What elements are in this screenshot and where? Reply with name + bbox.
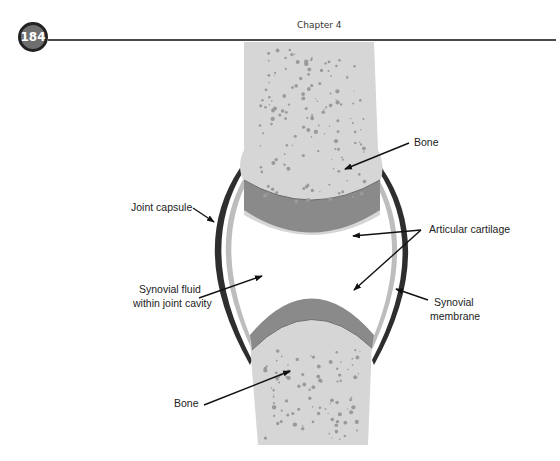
bone-spot xyxy=(312,421,315,424)
bone-spot xyxy=(336,119,339,122)
bone-spot xyxy=(334,148,336,150)
bone-spot xyxy=(285,111,288,114)
bone-spot xyxy=(302,187,305,190)
bone-spot xyxy=(328,70,330,72)
bone-spot xyxy=(336,381,338,383)
bone-spot xyxy=(281,410,283,412)
bone-spot xyxy=(268,74,271,77)
bone-spot xyxy=(358,373,359,374)
bone-spot xyxy=(271,188,274,191)
bone-spot xyxy=(356,429,358,431)
bone-spot xyxy=(329,104,333,108)
bone-spot xyxy=(275,158,278,161)
bone-spot xyxy=(261,99,263,101)
bone-spot xyxy=(278,381,280,383)
bone-spot xyxy=(301,92,305,96)
bone-spot xyxy=(259,104,262,107)
bone-spot xyxy=(334,139,338,143)
bone-spot xyxy=(274,72,276,74)
bone-spot xyxy=(286,144,289,147)
bone-spot xyxy=(317,150,319,152)
bone-spot xyxy=(260,145,262,147)
bone-spot xyxy=(353,375,357,379)
bone-spot xyxy=(311,117,314,120)
bone-spot xyxy=(356,356,360,360)
bone-top xyxy=(240,42,383,235)
bone-spot xyxy=(331,418,335,422)
bone-spot xyxy=(296,358,299,361)
bone-spot xyxy=(354,349,356,351)
bone-spot xyxy=(336,99,337,100)
bone-spot xyxy=(278,114,281,117)
bone-spot xyxy=(271,117,275,121)
bone-spot xyxy=(302,154,305,157)
bone-spot xyxy=(346,76,348,78)
bone-spot xyxy=(310,84,313,87)
bone-spot xyxy=(297,385,300,388)
bone-spot xyxy=(354,131,357,134)
bone-spot xyxy=(336,100,340,104)
bone-spot xyxy=(295,200,299,204)
bone-spot xyxy=(284,57,286,59)
bone-spot xyxy=(287,376,291,380)
bone-spot xyxy=(301,373,304,376)
bone-spot xyxy=(318,379,322,383)
bone-spot xyxy=(317,100,319,102)
bone-spot xyxy=(320,69,323,72)
bone-spot xyxy=(329,126,330,127)
bone-spot xyxy=(263,368,267,372)
bone-spot xyxy=(318,125,320,127)
bone-spot xyxy=(268,82,270,84)
bone-spot xyxy=(324,62,326,64)
bone-spot xyxy=(293,422,297,426)
bone-spot xyxy=(351,405,355,409)
bone-spot xyxy=(260,166,263,169)
bone-spot xyxy=(355,420,359,424)
bone-spot xyxy=(282,94,286,98)
bone-spot xyxy=(350,397,352,399)
bone-spot xyxy=(283,110,284,111)
bone-spot xyxy=(318,82,321,85)
bone-spot xyxy=(265,88,268,91)
label-synovial-membrane-1: Synovial xyxy=(434,296,474,308)
bone-spot xyxy=(307,68,311,72)
bone-spot xyxy=(354,90,355,91)
bone-spot xyxy=(294,84,298,88)
bone-spot xyxy=(259,124,262,127)
bone-spot xyxy=(330,403,331,404)
bone-spot xyxy=(328,61,331,64)
bone-spot xyxy=(360,129,361,130)
bone-spot xyxy=(324,133,325,134)
bone-spot xyxy=(276,49,280,53)
bone-spot xyxy=(312,385,316,389)
bone-spot xyxy=(286,167,290,171)
bone-spot xyxy=(330,93,332,95)
bone-spot xyxy=(353,65,355,67)
bone-spot xyxy=(294,54,295,55)
bone-spot xyxy=(305,185,309,189)
bone-spot xyxy=(310,59,312,61)
bone-spot xyxy=(280,420,283,423)
bone-spot xyxy=(328,413,329,414)
bone-spot xyxy=(343,421,347,425)
synovial-joint-figure: Bone Joint capsule Articular cartilage S… xyxy=(0,0,560,461)
bone-spot xyxy=(352,196,354,198)
bone-spot xyxy=(302,425,304,427)
bone-spot xyxy=(286,413,289,416)
bone-spot xyxy=(341,190,344,193)
bone-spot xyxy=(302,125,305,128)
bone-spot xyxy=(349,399,352,402)
bone-spot xyxy=(288,104,290,106)
bone-spot xyxy=(347,408,348,409)
bone-spot xyxy=(319,191,320,192)
bone-spot xyxy=(273,396,275,398)
bone-spot xyxy=(284,153,286,155)
bone-spot xyxy=(341,157,343,159)
bone-spot xyxy=(335,401,339,405)
bone-spot xyxy=(333,168,334,169)
bone-spot xyxy=(285,68,287,70)
bone-spot xyxy=(312,356,315,359)
bone-spot xyxy=(328,197,332,201)
bone-spot xyxy=(363,151,365,153)
bone-spot xyxy=(275,191,278,194)
